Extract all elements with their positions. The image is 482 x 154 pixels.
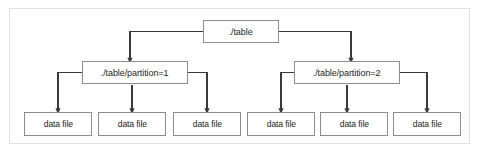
connector-root-to-partition-2 — [279, 32, 351, 61]
node-data-file-2[interactable]: data file — [98, 112, 166, 136]
node-data-file-4-label: data file — [266, 120, 295, 129]
connector-partition-2-to-leaf-6 — [400, 73, 427, 112]
node-partition-2-label: ./table/partition=2 — [313, 68, 381, 78]
node-data-file-6-label: data file — [412, 120, 441, 129]
node-partition-2[interactable]: ./table/partition=2 — [294, 61, 400, 84]
node-partition-1-label: ./table/partition=1 — [101, 68, 169, 78]
node-data-file-3[interactable]: data file — [173, 112, 241, 136]
node-data-file-5-label: data file — [339, 120, 368, 129]
node-data-file-4[interactable]: data file — [247, 112, 315, 136]
diagram-canvas: ./table ./table/partition=1 ./table/part… — [0, 0, 482, 154]
node-data-file-2-label: data file — [117, 120, 146, 129]
node-partition-1[interactable]: ./table/partition=1 — [82, 61, 188, 84]
connector-root-to-partition-1 — [130, 32, 203, 61]
node-data-file-1[interactable]: data file — [24, 112, 92, 136]
connector-partition-1-to-leaf-3 — [188, 73, 207, 112]
connector-partition-2-to-leaf-4 — [281, 73, 294, 112]
node-root-table-label: ./table — [229, 27, 253, 37]
node-data-file-6[interactable]: data file — [393, 112, 461, 136]
node-data-file-1-label: data file — [43, 120, 72, 129]
node-data-file-5[interactable]: data file — [320, 112, 388, 136]
connector-partition-1-to-leaf-1 — [58, 73, 82, 112]
node-data-file-3-label: data file — [192, 120, 221, 129]
node-root-table[interactable]: ./table — [203, 20, 279, 43]
